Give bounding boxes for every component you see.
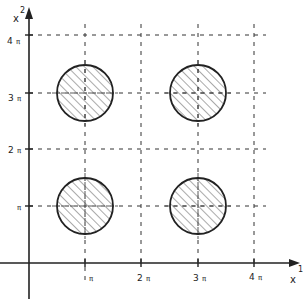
tick-marks: [25, 35, 254, 267]
y-tick-label-num: 4: [7, 36, 13, 46]
x-tick-label-num: 2: [137, 273, 143, 283]
x-axis-label-index: 1: [298, 265, 303, 274]
y-axis-label: x: [13, 13, 19, 24]
x-tick-labels: π 2 π 3 π 4 π: [89, 272, 263, 283]
disk-pi-pi: [57, 178, 113, 234]
x-tick-label-pi: π: [89, 275, 94, 283]
x-tick-label-pi: π: [258, 274, 263, 282]
x-tick-label-num: 3: [193, 273, 199, 283]
y-tick-labels: 4 π 3 π 2 π π: [7, 36, 22, 212]
y-axis-label-index: 2: [20, 6, 25, 15]
axis-labels: x 2 x 1: [13, 6, 303, 285]
y-tick-label-pi: π: [17, 95, 22, 103]
x-tick-label-num: 4: [249, 272, 255, 282]
y-tick-label-pi: π: [17, 147, 22, 155]
y-tick-label-pi: π: [17, 204, 22, 212]
x-axis-label: x: [290, 274, 296, 285]
y-axis-arrow-icon: [25, 7, 33, 19]
diagram-canvas: π 2 π 3 π 4 π 4 π 3 π 2 π π x 2 x 1: [0, 0, 304, 299]
y-tick-label-num: 2: [8, 145, 14, 155]
disk-3pi-pi: [170, 178, 226, 234]
y-tick-label-num: 3: [8, 93, 14, 103]
axes: [0, 7, 300, 299]
disk-3pi-3pi: [170, 65, 226, 121]
x-tick-label-pi: π: [202, 275, 207, 283]
grid-lines: [29, 24, 266, 280]
x-tick-label-pi: π: [146, 275, 151, 283]
y-tick-label-pi: π: [16, 38, 21, 46]
disk-pi-3pi: [57, 65, 113, 121]
